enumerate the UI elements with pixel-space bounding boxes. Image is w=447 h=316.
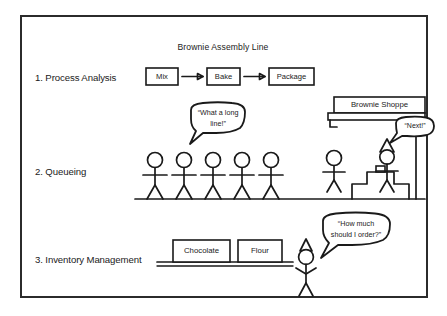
process-step-mix-label: Mix [156, 72, 168, 81]
row-label-inventory-management: 3. Inventory Management [35, 254, 142, 265]
row-label-queueing: 2. Queueing [35, 166, 86, 177]
speech-bubble-how-much-line1: “How much [338, 219, 374, 228]
speech-bubble-how-much-line2: should I order?” [331, 230, 382, 239]
arrow-mix-to-bake-icon [182, 74, 203, 80]
staff-member-1 [323, 151, 345, 193]
brownie-assembly-line-figure: Brownie Assembly Line 1. Process Analysi… [0, 0, 447, 316]
shelf-item-chocolate-label: Chocolate [184, 246, 219, 255]
arrow-bake-to-package-icon [244, 74, 265, 80]
figure-title: Brownie Assembly Line [178, 42, 269, 52]
shop-counter [352, 172, 409, 199]
process-step-mix: Mix [146, 68, 178, 85]
speech-bubble-next-label: “Next!” [405, 122, 427, 129]
process-step-package: Package [269, 68, 314, 85]
process-flow-diagram: Mix Bake Package [146, 68, 314, 85]
shop-awning-lip [330, 120, 337, 127]
brownie-shoppe-storefront: Brownie Shoppe [328, 97, 425, 199]
speech-bubble-long-line: “What a long line!” [190, 102, 245, 144]
shelf-item-flour-label: Flour [251, 246, 269, 255]
queue-customer-5 [259, 153, 283, 200]
queue-customers [143, 153, 283, 200]
queue-customer-4 [230, 153, 254, 200]
queue-customer-3 [201, 153, 225, 200]
shelf-item-flour: Flour [238, 240, 282, 262]
process-step-bake-label: Bake [215, 72, 232, 81]
shop-sign-label: Brownie Shoppe [351, 100, 408, 109]
figure-container: Brownie Assembly Line 1. Process Analysi… [0, 0, 447, 316]
queue-customer-2 [172, 153, 196, 200]
process-step-package-label: Package [277, 72, 307, 81]
row-label-process-analysis: 1. Process Analysis [35, 72, 117, 83]
queue-customer-1 [143, 153, 167, 200]
inventory-manager-figure [296, 239, 316, 296]
speech-bubble-long-line-line2: line!” [210, 119, 226, 128]
speech-bubble-how-much: “How much should I order?” [321, 213, 390, 259]
shelf-item-chocolate: Chocolate [173, 240, 230, 262]
process-step-bake: Bake [207, 68, 240, 85]
speech-bubble-long-line-line1: “What a long [198, 108, 239, 117]
